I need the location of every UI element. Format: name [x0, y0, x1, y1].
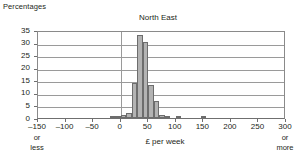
x-axis-tick-mark: [147, 119, 148, 122]
x-axis-tick-mark: [285, 119, 286, 122]
y-axis-tick-mark: [34, 44, 37, 45]
x-axis-tick-mark: [230, 119, 231, 122]
left-note-line2: less: [17, 143, 57, 153]
x-axis-tick-mark: [175, 119, 176, 122]
histogram-bar: [165, 116, 171, 118]
histogram-bar: [176, 116, 182, 118]
x-axis-tick-label: 300: [265, 122, 301, 131]
y-axis-tick-label: 35: [4, 26, 30, 35]
plot-area: [37, 31, 285, 119]
y-axis-tick-label: 20: [4, 63, 30, 72]
y-axis-tick-mark: [34, 69, 37, 70]
y-axis-tick-label: 10: [4, 88, 30, 97]
y-axis-tick-label: 5: [4, 101, 30, 110]
x-axis-tick-mark: [37, 119, 38, 122]
y-axis-tick-label: 30: [4, 38, 30, 47]
x-axis-tick-mark: [202, 119, 203, 122]
right-note-line2: more: [265, 143, 301, 153]
y-axis-tick-mark: [34, 31, 37, 32]
y-axis-tick-label: 25: [4, 51, 30, 60]
chart-title: North East: [118, 13, 198, 22]
x-axis-tick-mark: [257, 119, 258, 122]
y-axis-tick-mark: [34, 81, 37, 82]
x-axis-tick-mark: [65, 119, 66, 122]
x-axis-tick-mark: [92, 119, 93, 122]
x-axis-tick-mark: [120, 119, 121, 122]
x-axis-right-end-note: ormore: [265, 133, 301, 153]
x-axis-left-end-note: orless: [17, 133, 57, 153]
bars-group: [38, 32, 284, 118]
right-note-line1: or: [265, 133, 301, 143]
left-note-line1: or: [17, 133, 57, 143]
y-axis-tick-mark: [34, 94, 37, 95]
y-axis-caption: Percentages: [3, 2, 46, 11]
x-axis-title: £ per week: [120, 137, 210, 146]
histogram-bar: [201, 116, 207, 118]
y-axis-tick-mark: [34, 56, 37, 57]
chart-container: Percentages North East 05101520253035 –1…: [0, 0, 301, 166]
y-axis-tick-mark: [34, 106, 37, 107]
y-axis-tick-label: 15: [4, 76, 30, 85]
